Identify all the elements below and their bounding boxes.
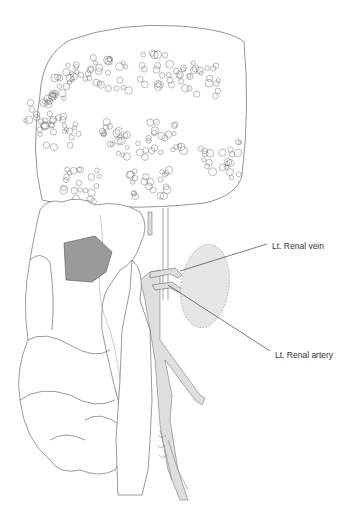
anatomy-diagram bbox=[0, 0, 353, 515]
label-renal-vein: Lt. Renal vein bbox=[272, 241, 324, 251]
label-renal-artery: Lt. Renal artery bbox=[275, 350, 333, 360]
liver bbox=[24, 25, 247, 207]
kidney bbox=[175, 241, 234, 331]
